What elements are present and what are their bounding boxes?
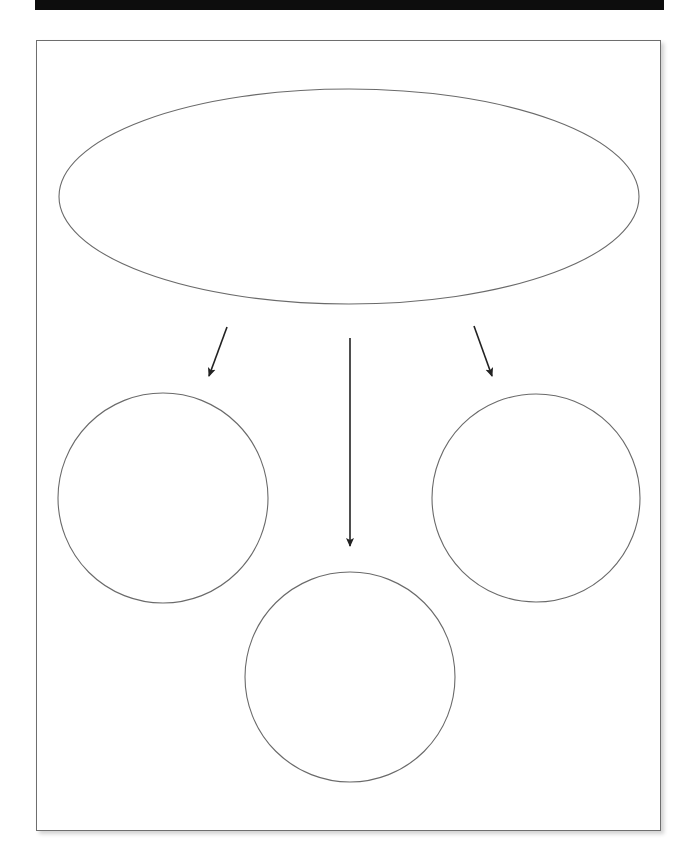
arrow-icon-to-left [209,327,227,376]
detail-circle-center [245,572,455,782]
graphic-organizer [0,0,697,863]
main-idea-ellipse [59,89,639,304]
detail-circle-right [432,394,640,602]
detail-circle-left [58,393,268,603]
arrow-icon-to-right [474,326,492,376]
